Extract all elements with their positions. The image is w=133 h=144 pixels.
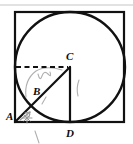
point-label-D: D <box>65 127 74 139</box>
figure-canvas: A B C D <box>0 0 133 144</box>
point-label-C: C <box>66 50 74 62</box>
geometry-figure: A B C D <box>0 0 133 144</box>
point-label-A: A <box>5 110 13 122</box>
point-label-B: B <box>32 85 40 97</box>
